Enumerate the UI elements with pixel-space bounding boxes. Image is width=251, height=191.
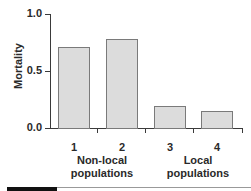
group-label-local: Local populations [158, 154, 238, 180]
figure-footer-rule [57, 187, 251, 188]
x-tick [242, 128, 243, 133]
y-tick [45, 71, 50, 72]
x-tick [145, 128, 146, 133]
x-category-4: 4 [207, 141, 227, 153]
y-tick-label-0: 0.0 [12, 121, 42, 133]
x-category-1: 1 [64, 141, 84, 153]
y-tick-label-05: 0.5 [12, 64, 42, 76]
x-category-3: 3 [160, 141, 180, 153]
bar-1 [58, 47, 90, 129]
bar-3 [154, 106, 186, 129]
x-tick [97, 128, 98, 133]
figure-footer-bar [7, 187, 57, 191]
y-axis [50, 14, 51, 129]
group-label-nonlocal: Non-local populations [62, 154, 142, 180]
x-category-2: 2 [112, 141, 132, 153]
bar-4 [201, 111, 233, 129]
bar-2 [106, 39, 138, 129]
y-tick [45, 128, 50, 129]
x-tick [193, 128, 194, 133]
y-tick [45, 14, 50, 15]
y-tick-label-1: 1.0 [12, 7, 42, 19]
